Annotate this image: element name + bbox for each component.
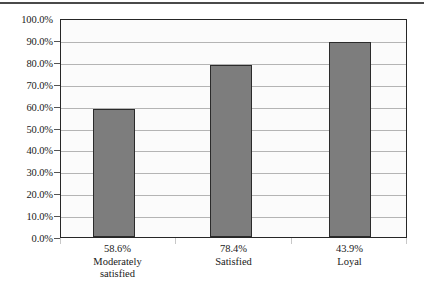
y-tick-label: 0.0% — [32, 233, 53, 244]
bar-satisfied[interactable] — [210, 65, 252, 237]
y-axis: 100.0% 90.0% 80.0% 70.0% 60.0% 50.0% 40.… — [0, 0, 57, 291]
y-tick-label: 40.0% — [26, 145, 53, 156]
plot-area — [60, 19, 407, 238]
y-tick-label: 50.0% — [26, 123, 53, 134]
y-tick-label: 70.0% — [26, 79, 53, 90]
y-tick-label: 90.0% — [26, 35, 53, 46]
x-category-value: 78.4% — [176, 243, 291, 256]
x-category-label-line1: Satisfied — [176, 256, 291, 269]
x-category-value: 43.9% — [292, 243, 407, 256]
x-category-label-line1: Loyal — [292, 256, 407, 269]
bar-series — [61, 20, 406, 237]
x-category-label-line2: satisfied — [60, 268, 175, 281]
x-category-loyal: 43.9% Loyal — [292, 243, 407, 268]
x-category-moderately-satisfied: 58.6% Moderately satisfied — [60, 243, 175, 281]
y-tick-label: 60.0% — [26, 101, 53, 112]
x-axis: 58.6% Moderately satisfied 78.4% Satisfi… — [60, 243, 407, 291]
x-category-label-line1: Moderately — [60, 256, 175, 269]
y-tick-label: 30.0% — [26, 167, 53, 178]
y-tick-label: 100.0% — [21, 14, 53, 25]
y-tick-label: 80.0% — [26, 57, 53, 68]
x-category-value: 58.6% — [60, 243, 175, 256]
x-category-satisfied: 78.4% Satisfied — [176, 243, 291, 268]
y-tick-label: 10.0% — [26, 211, 53, 222]
top-horizontal-rule — [0, 2, 424, 4]
chart-figure: 100.0% 90.0% 80.0% 70.0% 60.0% 50.0% 40.… — [0, 0, 424, 291]
y-tick-label: 20.0% — [26, 189, 53, 200]
bar-moderately-satisfied[interactable] — [93, 109, 135, 237]
bar-loyal[interactable] — [329, 42, 371, 237]
